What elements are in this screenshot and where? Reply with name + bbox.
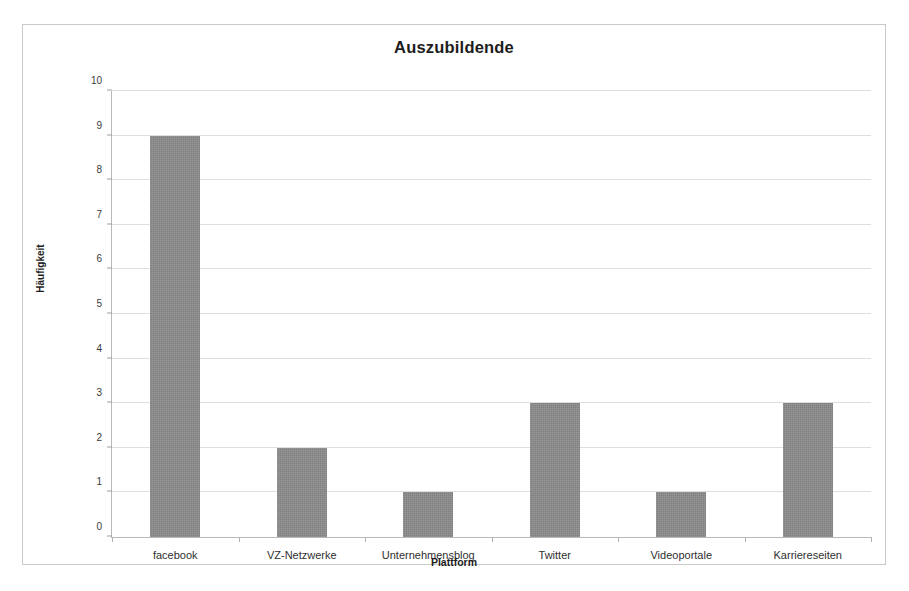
x-tick-mark [871, 537, 872, 542]
y-tick-label: 1 [96, 476, 102, 487]
bar-series: facebookVZ-NetzwerkeUnternehmensblogTwit… [112, 91, 871, 537]
x-tick-mark [239, 537, 240, 542]
bar[interactable] [277, 448, 327, 537]
bar[interactable] [403, 492, 453, 537]
bar-group: facebook [112, 91, 239, 537]
bar-group: Twitter [492, 91, 619, 537]
y-tick-label: 6 [96, 253, 102, 264]
x-axis-title: Plattform [23, 556, 885, 568]
bar-group: Unternehmensblog [365, 91, 492, 537]
x-tick-mark [618, 537, 619, 542]
bar[interactable] [150, 136, 200, 537]
y-axis-title: Häufigkeit [35, 209, 46, 329]
x-tick-mark [112, 537, 113, 542]
y-tick-label: 9 [96, 119, 102, 130]
bar-group: VZ-Netzwerke [239, 91, 366, 537]
y-tick-label: 0 [96, 521, 102, 532]
bar-group: Karriereseiten [745, 91, 872, 537]
y-tick-label: 10 [91, 75, 102, 86]
x-tick-mark [365, 537, 366, 542]
y-tick-label: 4 [96, 342, 102, 353]
x-tick-mark [745, 537, 746, 542]
chart-frame: Auszubildende Häufigkeit 012345678910 fa… [22, 24, 886, 565]
y-tick-label: 3 [96, 387, 102, 398]
y-tick-label: 2 [96, 431, 102, 442]
x-tick-mark [492, 537, 493, 542]
y-tick-label: 7 [96, 208, 102, 219]
plot-area: 012345678910 facebookVZ-NetzwerkeUnterne… [111, 91, 871, 538]
y-tick-label: 8 [96, 164, 102, 175]
bar[interactable] [783, 403, 833, 537]
bar[interactable] [656, 492, 706, 537]
y-tick-label: 5 [96, 298, 102, 309]
bar[interactable] [530, 403, 580, 537]
chart-title: Auszubildende [23, 38, 885, 57]
bar-group: Videoportale [618, 91, 745, 537]
